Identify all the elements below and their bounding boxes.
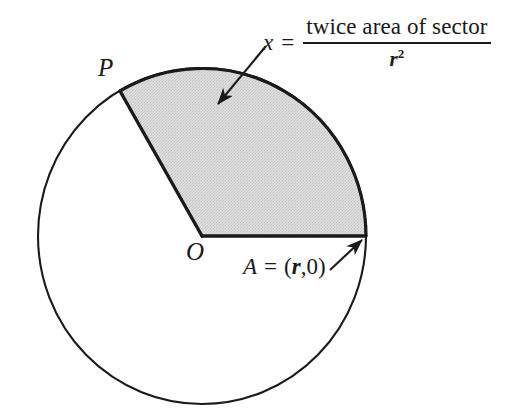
point-label-o: O [186,239,204,264]
formula-denominator-base: r [390,47,398,71]
point-a-comma-zero: ,0 [301,254,318,280]
formula-numerator: twice area of sector [303,14,490,42]
shaded-sector [120,68,366,236]
formula-denominator: r2 [390,44,405,72]
radian-formula: x = twice area of sector r2 [263,14,491,72]
point-a-close-paren: ) [318,254,326,280]
point-label-a: A = ( r ,0 ) [243,254,326,280]
formula-denominator-exponent: 2 [398,46,405,61]
point-a-symbol: A [243,254,257,280]
point-label-p: P [98,55,113,80]
point-a-open-paren: ( [284,254,292,280]
formula-variable: x [263,30,273,56]
point-a-equals: = [264,254,277,280]
point-a-radius-var: r [292,254,301,280]
arrow-to-point-a [330,240,362,270]
figure-canvas: P O A = ( r ,0 ) x = twice area of secto… [0,0,523,419]
formula-fraction: twice area of sector r2 [303,14,490,72]
formula-equals: = [281,30,294,56]
